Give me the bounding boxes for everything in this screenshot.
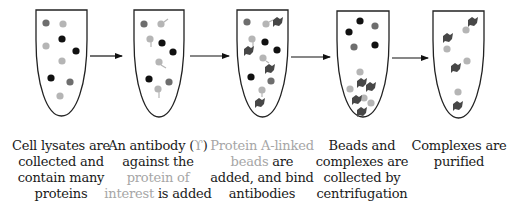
caption-step-1: Cell lysates are collected and contain m… [6, 138, 116, 202]
tube-4 [337, 11, 389, 117]
protein-dark [66, 78, 73, 85]
caption-step-4: Beads and complexes are collected by cen… [307, 138, 417, 202]
protein-black [47, 74, 54, 81]
protein-light [59, 20, 66, 27]
tube-1 [36, 10, 87, 116]
protein-light [56, 92, 63, 99]
caption-step-3: Protein A-linked beads are added, and bi… [207, 138, 317, 202]
protein-black [72, 47, 79, 54]
caption-step-2: An antibody (ϒ) against the protein of i… [103, 138, 213, 202]
protein-light [58, 57, 65, 64]
highlight-protein-a-beads: Protein A-linked beads [210, 138, 314, 169]
protein-dark [42, 19, 49, 26]
tube-5 [433, 11, 484, 118]
protein-black [58, 35, 65, 42]
tube-3 [237, 10, 288, 117]
protein-light [42, 42, 49, 49]
tube-2 [134, 10, 184, 117]
caption-step-5: Complexes are purified [404, 138, 514, 170]
antibody-icon: ϒ [194, 138, 203, 153]
